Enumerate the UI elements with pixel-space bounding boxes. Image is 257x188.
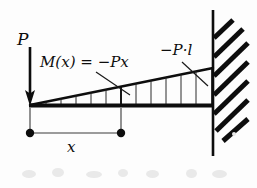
wall-hatch-line: [214, 81, 248, 114]
load-arrow-group: [25, 47, 35, 106]
wall-hatch-line: [214, 62, 248, 95]
wall-hatching-group: [214, 20, 248, 141]
dimension-dot-left: [26, 129, 34, 137]
scan-speck: [232, 132, 236, 136]
scan-speck: [146, 170, 159, 178]
scan-speck: [212, 170, 227, 178]
wall-hatch-line: [214, 43, 248, 76]
scan-speck: [118, 169, 128, 177]
scan-speck: [22, 170, 36, 178]
diagram-canvas: [0, 0, 257, 188]
scan-speck: [186, 169, 197, 178]
dimension-dot-right: [117, 129, 125, 137]
moment-equation-label: M(x) = −Px: [40, 55, 129, 70]
load-label: P: [17, 31, 28, 48]
wall-hatch-line: [214, 20, 233, 38]
max-moment-label: −P·l: [160, 43, 192, 58]
moment-diagram-group: [30, 68, 213, 105]
bending-moment-figure: P M(x) = −Px −P·l x: [0, 0, 257, 188]
scan-speck: [52, 168, 64, 177]
scan-speck: [86, 171, 102, 178]
distance-label: x: [67, 140, 75, 155]
dimension-x-group: [26, 108, 125, 137]
